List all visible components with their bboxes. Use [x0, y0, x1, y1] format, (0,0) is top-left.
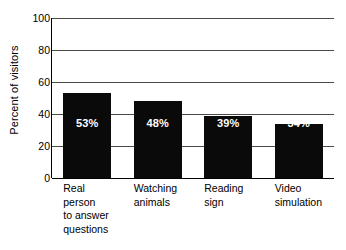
x-axis-category-label: Watching animals	[134, 182, 177, 209]
y-axis-tick-labels: 020406080100	[26, 0, 50, 190]
gridline	[52, 50, 334, 51]
y-axis-tick-label: 20	[26, 141, 50, 151]
gridline	[52, 18, 334, 19]
bar: 34%	[275, 124, 323, 178]
bar-chart: Percent of visitors 020406080100 53%48%3…	[0, 0, 346, 250]
plot-area: 53%48%39%34%	[51, 18, 333, 178]
bar: 39%	[204, 116, 252, 178]
x-axis-category-label: Real person to answer questions	[63, 182, 109, 236]
x-axis-category-label: Video simulation	[275, 182, 322, 209]
bar-value-label: 53%	[63, 117, 111, 129]
bar: 53%	[63, 93, 111, 178]
y-axis-tick-label: 100	[26, 13, 50, 23]
bar-value-label: 39%	[204, 117, 252, 129]
y-axis-tick-label: 40	[26, 109, 50, 119]
y-axis-tick-label: 80	[26, 45, 50, 55]
bar-value-label: 34%	[275, 117, 323, 129]
y-axis-title-text: Percent of visitors	[8, 45, 20, 134]
y-axis-title: Percent of visitors	[0, 0, 28, 180]
y-axis-tick-label: 0	[26, 173, 50, 183]
bar: 48%	[134, 101, 182, 178]
x-axis-line	[52, 178, 334, 179]
x-axis-category-labels: Real person to answer questionsWatching …	[51, 182, 341, 248]
x-axis-category-label: Reading sign	[204, 182, 243, 209]
y-axis-tick-label: 60	[26, 77, 50, 87]
bar-value-label: 48%	[134, 117, 182, 129]
gridline	[52, 82, 334, 83]
